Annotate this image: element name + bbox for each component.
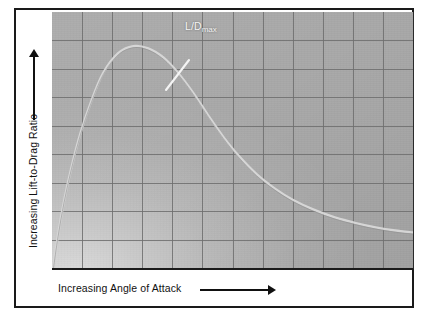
x-axis-title: Increasing Angle of Attack xyxy=(58,282,181,294)
ld-max-subscript: max xyxy=(202,25,217,34)
y-axis-title: Increasing Lift-to-Drag Ratio xyxy=(27,101,39,261)
ld-max-annotation-label: L/Dmax xyxy=(185,20,217,34)
arrow-right-icon xyxy=(200,289,268,291)
figure-frame: Increasing Lift-to-Drag Ratio L/Dmax Inc… xyxy=(14,8,414,308)
ld-max-main: L/D xyxy=(185,20,202,32)
x-axis-block: Increasing Angle of Attack xyxy=(52,276,412,304)
y-axis-block: Increasing Lift-to-Drag Ratio xyxy=(16,10,52,274)
plot-area: L/Dmax xyxy=(52,12,414,270)
annotation-leader-line xyxy=(52,12,413,268)
